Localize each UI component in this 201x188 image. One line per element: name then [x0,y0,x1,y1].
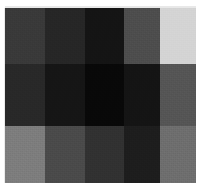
patch-r1-c4 [124,8,160,64]
patch-r2-c2 [45,64,85,126]
patch-r1-c1 [5,8,45,64]
image-canvas [0,0,201,188]
patch-r3-c3 [85,126,124,183]
patch-r2-c5 [160,64,196,126]
patch-r3-c5 [160,126,196,183]
patch-r3-c1 [5,126,45,183]
patch-r1-c2 [45,8,85,64]
patch-r3-c2 [45,126,85,183]
patch-r2-c1 [5,64,45,126]
patch-r1-c3 [85,8,124,64]
patch-grid [5,8,196,183]
patch-r2-c3 [85,64,124,126]
patch-r2-c4 [124,64,160,126]
patch-r1-c5 [160,8,196,64]
patch-r3-c4 [124,126,160,183]
